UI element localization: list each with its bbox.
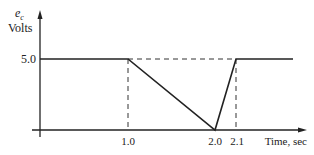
y-axis-arrow-icon: [38, 10, 43, 19]
x-tick-21: 2.1: [230, 135, 244, 147]
x-axis-label: Time, sec: [265, 135, 307, 147]
chart-canvas: ec Volts 5.0 1.0 2.0 2.1 Time, sec: [0, 0, 314, 155]
y-label-units: Volts: [8, 21, 33, 35]
signal-trace: [40, 59, 293, 130]
y-label-symbol: ec: [15, 6, 24, 22]
y-tick-5: 5.0: [21, 52, 36, 66]
x-axis-arrow-icon: [298, 128, 307, 133]
x-tick-2: 2.0: [208, 135, 222, 147]
x-tick-1: 1.0: [121, 135, 135, 147]
